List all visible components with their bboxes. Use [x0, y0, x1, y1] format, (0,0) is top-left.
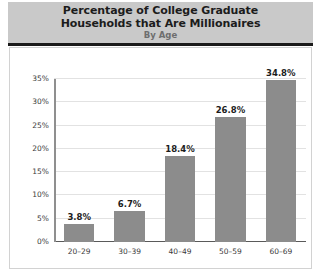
bar-value-label: 18.4%	[165, 144, 195, 154]
y-axis-tick-label: 25%	[32, 120, 49, 129]
bars-group: 3.8%20–296.7%30–3918.4%40–4926.8%50–5934…	[54, 79, 306, 242]
bar-category: 3.8%20–29	[54, 79, 104, 242]
bar-category: 34.8%60–69	[256, 79, 306, 242]
chart-subtitle: By Age	[144, 30, 177, 40]
bar: 34.8%	[266, 80, 296, 242]
chart-panel: 0%5%10%15%20%25%30%35% 3.8%20–296.7%30–3…	[9, 47, 312, 269]
bar-category: 26.8%50–59	[205, 79, 255, 242]
bar-category: 18.4%40–49	[155, 79, 205, 242]
bar: 18.4%	[165, 156, 195, 242]
x-axis-tick-label: 30–39	[118, 247, 141, 256]
y-axis-tick-label: 15%	[32, 167, 49, 176]
x-axis-tick-label: 60–69	[269, 247, 292, 256]
chart-header-band: Percentage of College Graduate Household…	[8, 2, 313, 43]
header-divider-rule	[8, 43, 313, 46]
y-axis-tick-label: 10%	[32, 190, 49, 199]
bar: 6.7%	[114, 211, 144, 242]
y-axis-tick-label: 20%	[32, 143, 49, 152]
chart-figure: Percentage of College Graduate Household…	[0, 0, 321, 276]
bar-value-label: 3.8%	[67, 212, 91, 222]
bar: 26.8%	[215, 117, 245, 242]
y-axis-tick-label: 35%	[32, 74, 49, 83]
y-axis-tick-label: 5%	[37, 213, 49, 222]
y-axis-tick-label: 0%	[37, 236, 49, 245]
bar-value-label: 34.8%	[266, 68, 296, 78]
bar-category: 6.7%30–39	[104, 79, 154, 242]
x-axis-tick-label: 20–29	[68, 247, 91, 256]
chart-title-line-2: Households that Are Millionaires	[61, 18, 261, 31]
x-axis-tick-label: 40–49	[169, 247, 192, 256]
y-axis-tick-label: 30%	[32, 97, 49, 106]
plot-area: 0%5%10%15%20%25%30%35% 3.8%20–296.7%30–3…	[54, 79, 306, 242]
chart-title-line-1: Percentage of College Graduate	[63, 5, 258, 18]
bar: 3.8%	[64, 224, 94, 242]
x-axis-tick-label: 50–59	[219, 247, 242, 256]
bar-value-label: 26.8%	[216, 105, 246, 115]
bar-value-label: 6.7%	[118, 199, 142, 209]
